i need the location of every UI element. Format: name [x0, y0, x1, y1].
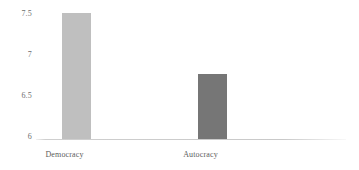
y-axis-tick-label: 6.5	[0, 91, 32, 100]
y-axis-tick-label: 7	[0, 50, 32, 59]
y-axis-tick-label: 6	[0, 132, 32, 141]
bar-chart: 7.5 7 6.5 6 Democracy Autocracy	[0, 0, 359, 170]
x-axis-baseline	[36, 139, 346, 140]
bar-democracy	[62, 13, 91, 140]
plot-area	[38, 8, 347, 140]
bar-autocracy	[198, 74, 227, 140]
y-axis-tick-label: 7.5	[0, 9, 32, 18]
x-axis-category-label-autocracy: Autocracy	[168, 150, 233, 160]
x-axis-category-label-democracy: Democracy	[32, 150, 97, 160]
